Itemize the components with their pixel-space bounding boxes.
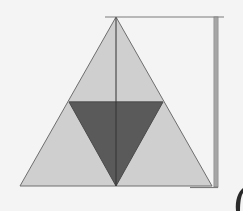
corner-mark	[236, 188, 243, 211]
triangle-diagram	[0, 0, 243, 211]
diagram-canvas: Sierpinski-style subdivided triangle wit…	[0, 0, 243, 211]
